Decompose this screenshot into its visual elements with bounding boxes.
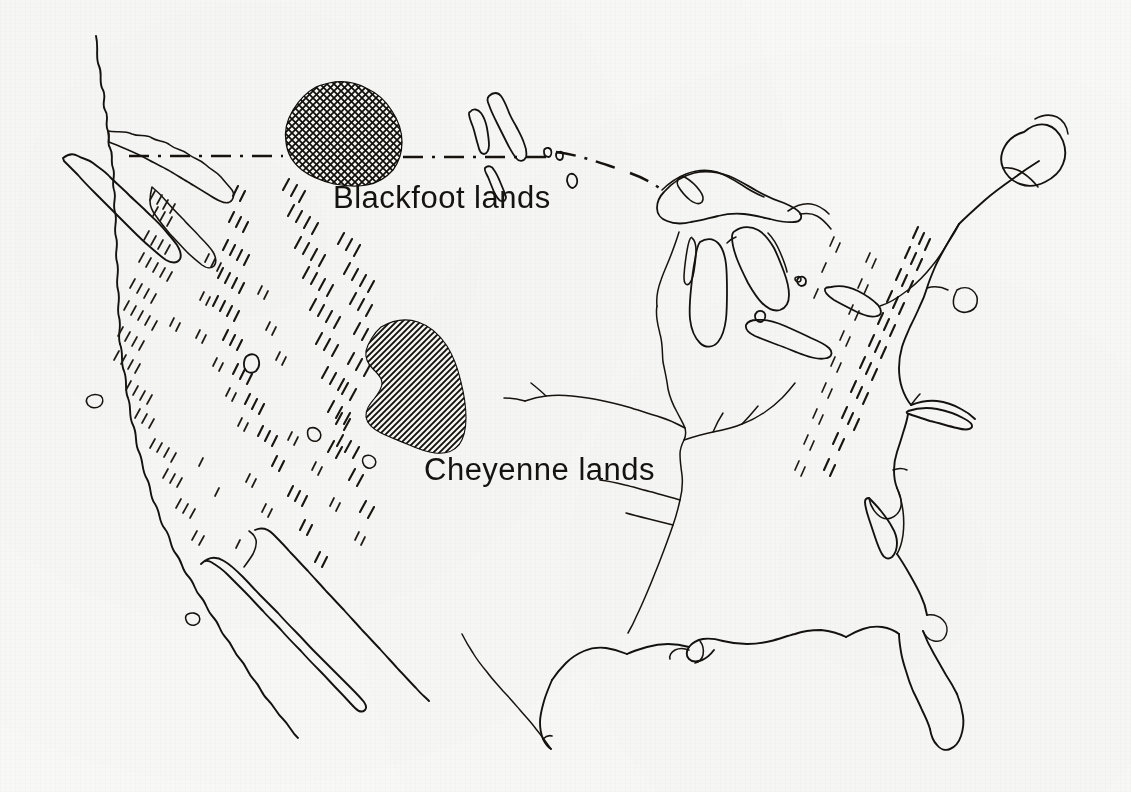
territory-cheyenne [366,320,466,453]
river-system [462,232,795,749]
inner-coastal-detail [893,394,920,470]
baja-california [186,428,429,712]
map-label-blackfoot-lands: Blackfoot lands [333,180,551,216]
map-canvas [0,0,1131,792]
map-page: Blackfoot lands Cheyenne lands [0,0,1131,792]
great-salt-lake [244,354,259,372]
territory-blackfoot [285,82,402,186]
mountain-range-rockies-west [283,179,374,518]
florida-gulf-coast [540,627,963,750]
mountain-range-appalachian [824,227,930,476]
mountain-range-coast [114,191,204,545]
map-label-cheyenne-lands: Cheyenne lands [424,452,655,488]
great-lakes [657,172,959,359]
mountain-range-basin [170,254,365,548]
west-coast-outline [63,36,298,738]
northeast-coast [865,115,1068,694]
